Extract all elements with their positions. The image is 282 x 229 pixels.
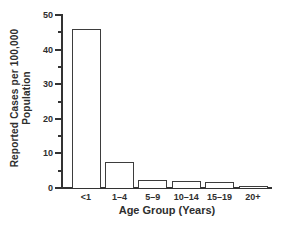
bar-20+: [239, 186, 268, 188]
bar-<1: [72, 29, 101, 188]
y-tick-label: 0: [28, 183, 53, 193]
y-axis-title-line1: Reported Cases per 100,000: [9, 13, 21, 183]
bar-10–14: [172, 181, 201, 188]
y-minor-tick: [58, 31, 62, 33]
bar-1–4: [105, 162, 134, 188]
y-minor-tick: [58, 101, 62, 103]
y-major-tick: [55, 49, 62, 51]
bar-15–19: [205, 182, 234, 188]
y-tick-label: 10: [28, 148, 53, 158]
y-tick-label: 50: [28, 10, 53, 20]
y-minor-tick: [58, 135, 62, 137]
y-minor-tick: [58, 66, 62, 68]
y-tick-label: 30: [28, 79, 53, 89]
x-tick-label: 20+: [231, 192, 275, 202]
y-major-tick: [55, 14, 62, 16]
bar-chart-figure: Reported Cases per 100,000 Population 01…: [0, 0, 282, 229]
y-major-tick: [55, 118, 62, 120]
y-tick-label: 40: [28, 45, 53, 55]
y-minor-tick: [58, 170, 62, 172]
y-major-tick: [55, 152, 62, 154]
x-axis-title: Age Group (Years): [62, 204, 272, 216]
y-tick-label: 20: [28, 114, 53, 124]
bar-5–9: [138, 180, 167, 188]
y-major-tick: [55, 83, 62, 85]
y-major-tick: [55, 187, 62, 189]
